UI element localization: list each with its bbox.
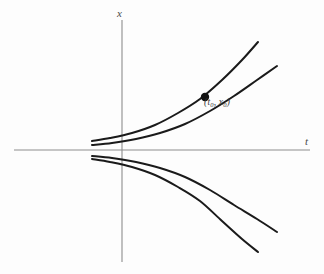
solution-curve-upper-outer bbox=[92, 42, 258, 141]
solution-curves-figure: x t (t0, x0) bbox=[0, 0, 324, 274]
label-x-subscript: 0 bbox=[223, 101, 226, 108]
t-axis-label: t bbox=[305, 136, 308, 147]
diagram-canvas bbox=[0, 0, 324, 274]
solution-curve-lower-inner bbox=[92, 156, 277, 232]
x-axis-label: x bbox=[117, 8, 122, 19]
initial-condition-label: (t0, x0) bbox=[204, 98, 230, 108]
solution-curve-upper-inner bbox=[92, 66, 277, 145]
paren-close: ) bbox=[227, 97, 230, 107]
label-t-subscript: 0 bbox=[210, 101, 213, 108]
